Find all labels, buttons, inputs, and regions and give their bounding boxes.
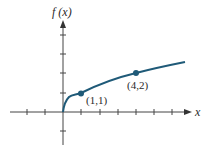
point-4-2 [133, 70, 139, 76]
x-axis [10, 109, 186, 115]
y-axis-arrow-icon [60, 20, 66, 28]
y-axis-label: f (x) [52, 5, 72, 19]
point-1-1 [78, 91, 84, 97]
point-4-2-label: (4,2) [127, 79, 148, 92]
point-1-1-label: (1,1) [86, 94, 107, 107]
y-axis [60, 26, 66, 145]
x-axis-arrow-icon [184, 109, 192, 115]
sqrt-curve [63, 62, 185, 112]
sqrt-function-graph: f (x) x (1,1) (4,2) [0, 0, 209, 148]
x-axis-label: x [194, 105, 201, 119]
